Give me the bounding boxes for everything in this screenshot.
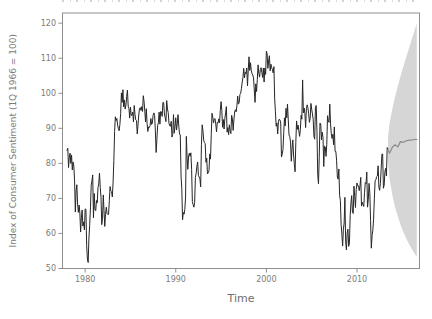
y-tick-label: 60 — [46, 229, 56, 238]
y-tick-label: 110 — [41, 54, 56, 63]
y-tick-label: 70 — [46, 194, 56, 203]
y-tick-label: 80 — [46, 159, 56, 168]
x-tick-label: 1980 — [75, 275, 95, 284]
x-tick-label: 1990 — [166, 275, 186, 284]
x-axis-title: Time — [227, 292, 255, 305]
plot-svg: 19801990200020105060708090100110120 Inde… — [0, 0, 432, 319]
plot-generated-layers: 19801990200020105060708090100110120 — [41, 13, 420, 284]
x-tick-label: 2010 — [347, 275, 367, 284]
consumer-sentiment-forecast-figure: 19801990200020105060708090100110120 Inde… — [0, 0, 432, 319]
y-tick-label: 100 — [41, 89, 56, 98]
x-tick-label: 2000 — [256, 275, 276, 284]
index-of-consumer-sentiment-monthly-line — [67, 51, 388, 262]
y-tick-label: 50 — [46, 264, 56, 273]
y-axis-title: Index of Consumer Sentiment (1Q 1966 = 1… — [8, 34, 18, 247]
y-tick-label: 90 — [46, 124, 56, 133]
y-tick-label: 120 — [41, 19, 56, 28]
plot-border — [63, 13, 420, 269]
